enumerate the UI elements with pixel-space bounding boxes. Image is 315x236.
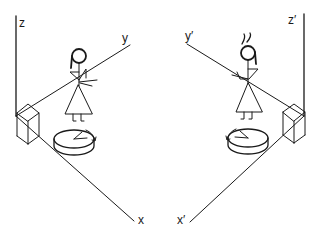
left-head	[72, 49, 86, 63]
right-y-axis	[187, 44, 304, 116]
left-y-label: y	[122, 31, 128, 45]
left-y-axis	[16, 45, 130, 116]
right-x-label: x′	[177, 213, 186, 227]
left-x-axis	[16, 116, 134, 221]
left-rotating-disc	[54, 130, 96, 155]
right-coordinate-system: z′ y′ x′	[177, 13, 305, 227]
left-stick-figure	[65, 49, 97, 121]
right-z-label: z′	[288, 13, 297, 27]
right-rotating-disc	[226, 129, 268, 154]
right-head	[241, 46, 255, 60]
left-box	[17, 104, 39, 144]
right-y-label: y′	[185, 29, 194, 43]
right-stick-figure	[232, 33, 262, 119]
left-x-label: x	[138, 213, 144, 227]
right-x-axis	[190, 116, 304, 222]
left-coordinate-system: z y x	[16, 16, 144, 227]
left-z-label: z	[19, 16, 25, 30]
mirror-coordinate-diagram: z y x	[0, 0, 315, 236]
